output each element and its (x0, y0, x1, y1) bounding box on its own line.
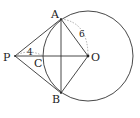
label-b: B (52, 93, 60, 106)
segment-bo (61, 56, 88, 93)
geometry-diagram: P A B O C 4 6 (0, 0, 140, 118)
label-o: O (91, 51, 100, 64)
segment-pa (15, 19, 61, 56)
label-c: C (34, 57, 42, 70)
measure-ao: 6 (79, 29, 85, 39)
point-p-dot (14, 55, 16, 57)
point-b-dot (60, 92, 62, 94)
measure-pc: 4 (27, 47, 33, 57)
label-p: P (3, 51, 11, 64)
point-o-dot (87, 55, 90, 58)
label-a: A (50, 8, 60, 21)
point-a-dot (60, 18, 62, 20)
